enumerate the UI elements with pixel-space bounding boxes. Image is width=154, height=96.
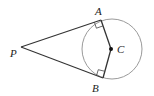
label-a: A (94, 5, 102, 17)
radius-ca (101, 20, 111, 49)
radius-cb (103, 49, 111, 78)
tangent-diagram: P A B C (0, 0, 154, 96)
tangent-segment-pa (21, 20, 101, 47)
label-b: B (92, 82, 99, 94)
label-p: P (9, 47, 17, 59)
label-c: C (117, 43, 125, 55)
center-point (109, 47, 113, 51)
tangent-segment-pb (21, 47, 103, 78)
